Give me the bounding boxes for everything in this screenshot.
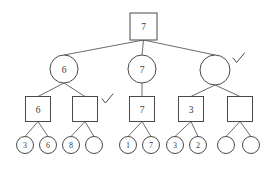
node-value-label: 3 <box>173 141 177 150</box>
min-node-circle <box>86 137 103 154</box>
tree-node-min-left[interactable]: 6 <box>50 55 78 83</box>
node-value-label: 1 <box>126 141 130 150</box>
node-value-label: 6 <box>46 141 50 150</box>
tree-edge <box>85 122 94 137</box>
tree-edge <box>191 122 198 137</box>
tree-node-leaf-4[interactable] <box>86 137 103 154</box>
min-node-circle <box>200 55 230 85</box>
tree-edge <box>240 122 251 137</box>
tree-edge <box>215 85 240 97</box>
nodes-layer: 7676733681732 <box>17 13 260 154</box>
tree-edge <box>38 83 64 97</box>
node-value-label: 2 <box>196 141 200 150</box>
node-value-label: 7 <box>140 65 145 75</box>
tree-edge <box>142 122 151 137</box>
game-tree-diagram: 7676733681732 <box>0 0 277 169</box>
tree-node-leaf-1[interactable]: 3 <box>17 137 34 154</box>
tree-edge <box>38 122 48 137</box>
tree-node-leaf-6[interactable]: 7 <box>143 137 160 154</box>
max-node-square <box>73 97 98 122</box>
min-node-circle <box>218 137 235 154</box>
tree-edge <box>142 40 144 55</box>
node-value-label: 3 <box>23 141 27 150</box>
tree-node-leaf-2[interactable]: 6 <box>40 137 57 154</box>
tree-node-max-4[interactable]: 3 <box>179 97 204 122</box>
node-value-label: 6 <box>36 105 41 115</box>
tree-edge <box>144 40 216 55</box>
node-value-label: 7 <box>141 22 146 32</box>
checkmark-icon <box>102 94 113 103</box>
min-node-circle <box>243 137 260 154</box>
tree-edge <box>191 85 215 97</box>
tree-node-leaf-9[interactable] <box>218 137 235 154</box>
tree-edge <box>71 122 85 137</box>
tree-node-max-5[interactable] <box>228 97 253 122</box>
tree-node-leaf-5[interactable]: 1 <box>120 137 137 154</box>
tree-node-leaf-3[interactable]: 8 <box>63 137 80 154</box>
tree-node-leaf-10[interactable] <box>243 137 260 154</box>
tree-edge <box>128 122 142 137</box>
tree-node-min-mid[interactable]: 7 <box>128 55 156 83</box>
tree-node-leaf-7[interactable]: 3 <box>167 137 184 154</box>
node-value-label: 8 <box>69 141 73 150</box>
node-value-label: 3 <box>189 105 194 115</box>
max-node-square <box>228 97 253 122</box>
node-value-label: 7 <box>149 141 153 150</box>
tree-node-leaf-8[interactable]: 2 <box>190 137 207 154</box>
tree-edge <box>64 83 85 97</box>
tree-node-min-right[interactable] <box>200 55 230 85</box>
tree-edge <box>175 122 191 137</box>
tree-edge <box>64 40 144 55</box>
tree-edge <box>25 122 38 137</box>
tree-edge <box>226 122 240 137</box>
checkmark-icon <box>233 53 245 63</box>
tree-node-max-3[interactable]: 7 <box>130 97 155 122</box>
node-value-label: 6 <box>62 65 67 75</box>
tree-node-max-1[interactable]: 6 <box>26 97 51 122</box>
edges-layer <box>25 40 251 137</box>
tree-node-max-2[interactable] <box>73 97 98 122</box>
node-value-label: 7 <box>140 105 145 115</box>
tree-node-root[interactable]: 7 <box>130 13 157 40</box>
